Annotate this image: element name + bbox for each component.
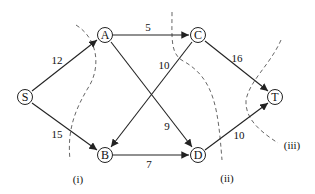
node-t: T <box>268 90 283 105</box>
edge-c-t <box>205 41 268 91</box>
cut-label-ii: (ii) <box>220 172 234 185</box>
edge-label-a-c: 5 <box>145 21 151 33</box>
edge-label-s-b: 15 <box>52 128 64 140</box>
svg-text:T: T <box>271 90 279 104</box>
edge-label-a-d: 9 <box>164 120 170 132</box>
node-s: S <box>18 90 33 105</box>
node-c: C <box>191 28 206 43</box>
svg-text:B: B <box>101 148 109 162</box>
cut-label-iii: (iii) <box>284 139 301 152</box>
svg-text:A: A <box>101 28 110 42</box>
network-flow-diagram: 12 15 5 9 10 16 7 10 S A B C D T (i) (ii… <box>0 0 315 194</box>
edge-s-a <box>32 40 97 91</box>
edge-label-s-a: 12 <box>52 54 63 66</box>
edge-label-c-t: 16 <box>232 52 244 64</box>
edge-label-c-b: 10 <box>159 59 171 71</box>
edge-s-b <box>32 103 97 150</box>
svg-text:S: S <box>22 90 29 104</box>
node-d: D <box>191 148 206 163</box>
cut-label-i: (i) <box>73 173 84 186</box>
edge-label-b-d: 7 <box>146 158 152 170</box>
svg-text:D: D <box>194 148 203 162</box>
svg-text:C: C <box>194 28 202 42</box>
node-b: B <box>98 148 113 163</box>
node-a: A <box>98 28 113 43</box>
edge-d-t <box>205 103 268 150</box>
edge-label-d-t: 10 <box>234 129 246 141</box>
